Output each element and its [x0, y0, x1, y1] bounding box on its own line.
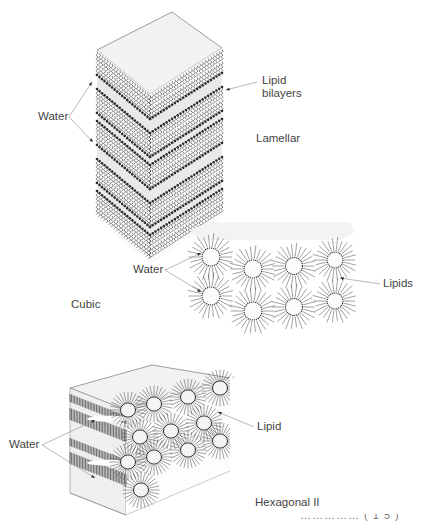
lamellar-water-label: Water — [38, 110, 68, 123]
hexagonal-water-label: Water — [9, 438, 39, 451]
caption-fragment: …………… ( 1 5 ) — [300, 514, 426, 521]
hexagonal-lipid-label: Lipid — [257, 420, 281, 433]
lamellar-title: Lamellar — [256, 132, 300, 145]
cubic-block — [188, 222, 356, 333]
diagram-artwork — [0, 0, 426, 526]
cropped-caption-text: …………… ( 1 5 ) — [300, 514, 426, 526]
lipid-phase-diagram: Water Lipid bilayers Lamellar Water Lipi… — [0, 0, 426, 526]
lamellar-bilayers-label: Lipid bilayers — [262, 74, 302, 100]
cubic-title: Cubic — [71, 298, 100, 311]
cubic-water-label: Water — [133, 263, 163, 276]
cubic-lipids-label: Lipids — [383, 277, 413, 290]
hexagonal-title: Hexagonal II — [255, 496, 320, 509]
hexagonal-block — [70, 365, 260, 526]
